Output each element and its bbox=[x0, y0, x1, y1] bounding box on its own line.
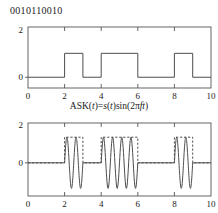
y-tick-label: 0 bbox=[19, 158, 24, 168]
x-tick-label: 0 bbox=[26, 199, 31, 209]
x-tick-label: 8 bbox=[172, 199, 177, 209]
ask-plot: 024681002 bbox=[0, 117, 218, 213]
signal-trace bbox=[28, 137, 211, 188]
x-tick-label: 6 bbox=[136, 199, 141, 209]
x-tick-label: 8 bbox=[172, 91, 177, 101]
plot-frame bbox=[28, 27, 211, 88]
x-tick-label: 10 bbox=[207, 91, 217, 101]
x-tick-label: 0 bbox=[26, 91, 31, 101]
signal-trace bbox=[28, 53, 211, 77]
baseband-plot: 024681002 bbox=[0, 20, 218, 105]
y-tick-label: 2 bbox=[19, 25, 24, 35]
ask-formula-label: ASK(t)=s(t)sin(2πft) bbox=[0, 101, 218, 111]
x-tick-label: 2 bbox=[62, 91, 67, 101]
x-tick-label: 4 bbox=[99, 91, 104, 101]
baseband-plot-svg: 024681002 bbox=[0, 20, 218, 105]
figure-root: 0010110010 024681002 ASK(t)=s(t)sin(2πft… bbox=[0, 0, 218, 213]
y-tick-label: 2 bbox=[19, 120, 24, 130]
y-tick-label: 0 bbox=[19, 72, 24, 82]
x-tick-label: 2 bbox=[62, 199, 67, 209]
x-tick-label: 6 bbox=[136, 91, 141, 101]
bitstream-label: 0010110010 bbox=[10, 5, 63, 16]
ask-plot-svg: 024681002 bbox=[0, 117, 218, 213]
x-tick-label: 10 bbox=[207, 199, 217, 209]
x-tick-label: 4 bbox=[99, 199, 104, 209]
